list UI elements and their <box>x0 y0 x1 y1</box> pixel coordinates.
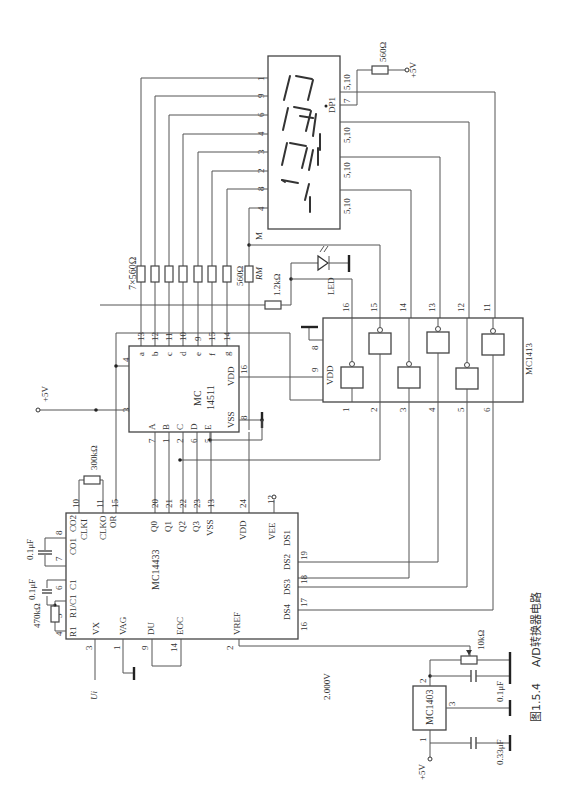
pin-number: 6 <box>54 585 64 590</box>
resistor-1-2k-label: 1.2kΩ <box>272 273 282 296</box>
pin-number: 3 <box>447 701 457 706</box>
pin-number: 14 <box>169 643 179 653</box>
pin-number: 23 <box>192 499 202 509</box>
pin-number: 21 <box>164 499 174 508</box>
ds-wires <box>178 402 493 610</box>
pin-label: d <box>178 351 188 356</box>
seven-segment-display: DP1 <box>268 56 340 229</box>
pin-label: VEE <box>267 522 277 540</box>
pin-label: DU <box>146 622 156 635</box>
capacitor-01-label: 0.1μF <box>25 539 35 560</box>
display-common-label: 5,10 <box>342 74 352 90</box>
m-node-label: M <box>254 232 264 240</box>
pin-number: 22 <box>178 499 188 508</box>
pin-number: 17 <box>299 598 309 608</box>
pin-number: 14 <box>398 303 408 313</box>
pin-number: 4 <box>121 357 131 362</box>
vcc-top-label: +5V <box>40 385 50 402</box>
pin-number: 2 <box>225 646 235 651</box>
digit-icon <box>282 180 310 212</box>
resistor-560-dp-label: 560Ω <box>378 42 388 63</box>
pin-label: VDD <box>226 366 236 386</box>
pin-number: 20 <box>150 499 160 509</box>
pin-label: DS3 <box>282 578 292 595</box>
pin-number: 16 <box>341 303 351 313</box>
pin-number: 1 <box>418 738 428 743</box>
terminal-icon <box>36 408 40 412</box>
chip-mc14433: MC14433 R1 R1/C1 C1 CO1 CO2 CLKI CLKO OR… <box>54 495 309 652</box>
resistor-560-label: 560Ω <box>235 266 245 287</box>
pin-label: a <box>136 352 146 356</box>
digit-icon <box>284 76 313 118</box>
chip-mc1403: MC1403 2 3 1 <box>413 679 457 743</box>
rm-label: RM <box>254 267 264 281</box>
pin-number: 4 <box>427 407 437 412</box>
pin-number: 16 <box>299 622 309 632</box>
pin-number: 8 <box>310 345 320 350</box>
terminal-icon <box>272 495 276 499</box>
pin-number: 8 <box>54 530 64 535</box>
display-pin-label: 1 <box>256 77 266 82</box>
pin-number: 3 <box>84 645 94 650</box>
vcc-ref-label: +5V <box>417 763 427 780</box>
pin-label: Q2 <box>177 521 187 532</box>
pin-label: c <box>164 352 174 356</box>
pin-number: 13 <box>427 303 437 313</box>
pin-number: 15 <box>369 303 379 313</box>
pin-label: OR <box>108 515 118 528</box>
pin-label: f <box>207 353 217 356</box>
pin-label: VAG <box>118 616 128 635</box>
pin-label: CLKO <box>98 515 108 540</box>
pin-label: Q1 <box>163 521 173 532</box>
chip-name: MC14433 <box>150 549 161 590</box>
resistor-300k-label: 300kΩ <box>89 445 99 470</box>
terminal-icon <box>428 757 432 761</box>
pin-label: D <box>189 423 199 430</box>
pin-number: 4 <box>54 631 64 636</box>
schematic-canvas: DP1 1 9 6 4 3 2 8 4 5,10 7 5,10 5,10 5,1… <box>0 0 568 793</box>
pin-number: 1 <box>341 408 351 413</box>
pin-number: 9 <box>193 336 203 341</box>
pin-number: 9 <box>140 645 150 650</box>
pin-number: 2 <box>418 679 428 684</box>
chip-name: MC1403 <box>424 689 435 725</box>
pin-label: E <box>203 424 213 430</box>
capacitor-01-label: 0.1μF <box>27 579 37 600</box>
pin-number: 9 <box>310 367 320 372</box>
junction-dot <box>114 364 118 368</box>
caption-title: A/D转换器电路 <box>529 592 543 667</box>
digit-icon <box>282 143 318 170</box>
pin-number: 24 <box>238 499 248 509</box>
pin-label: C <box>175 424 185 430</box>
resistor-470k-label: 470kΩ <box>32 603 42 628</box>
pin-label: VSS <box>226 411 236 428</box>
pin-number: 11 <box>482 303 492 312</box>
pin-label: C1 <box>68 579 78 590</box>
pin-number: 7 <box>54 556 64 561</box>
junction-dot <box>94 408 98 412</box>
pin-label: CLKI <box>79 519 89 540</box>
caption-number: 图1.5.4 <box>530 683 543 722</box>
vref-value-label: 2.000V <box>322 673 332 700</box>
pin-number: 1 <box>112 646 122 651</box>
pin-number: 5 <box>456 407 466 412</box>
pin-number: 8 <box>239 415 249 420</box>
pin-label: e <box>193 352 203 356</box>
pin-number: 16 <box>239 365 249 375</box>
display-common-label: 5,10 <box>342 162 352 178</box>
resistor-300k <box>84 476 100 484</box>
pin-label: VSS <box>205 519 215 536</box>
pin-label: CO2 <box>68 515 78 532</box>
digit-icon <box>283 107 320 150</box>
pin-number: 15 <box>110 499 120 509</box>
pin-number: 3 <box>398 407 408 412</box>
resistor-array-label: 7×560Ω <box>127 257 138 290</box>
pin-number: 6 <box>482 407 492 412</box>
pin-label: R1/C1 <box>68 594 78 618</box>
capacitor-ref-label: 0.1μF <box>495 681 505 702</box>
led-label: LED <box>326 277 336 295</box>
pin-label: VX <box>91 622 101 635</box>
capacitor-icon <box>42 590 52 593</box>
display-common-label: 5,10 <box>342 127 352 143</box>
chip-mc1413: MC1413 16 15 14 13 12 11 1 2 3 4 5 6 8 9… <box>310 303 534 413</box>
